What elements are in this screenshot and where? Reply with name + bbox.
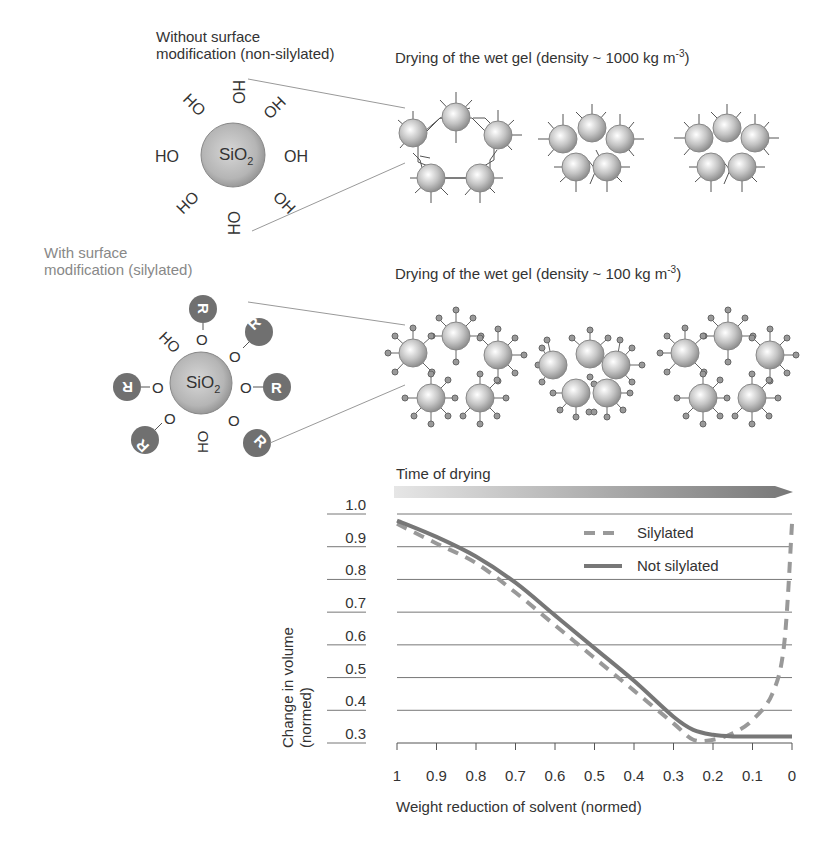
r-group-lower-left: R O <box>131 410 176 456</box>
gel-network-bottom-stage-2 <box>535 327 645 420</box>
y-tick-label: 0.6 <box>345 627 366 644</box>
x-tick-label: 0.3 <box>663 767 684 784</box>
oh-group: HO <box>230 80 247 104</box>
series-silylated-line <box>397 524 792 741</box>
r-group-right: R O <box>240 373 291 401</box>
time-of-drying-label: Time of drying <box>396 465 490 482</box>
gel-network-top-stage-3 <box>674 104 779 192</box>
oh-group: HO <box>194 431 211 454</box>
oh-group: HO <box>155 148 179 165</box>
x-tick-label: 0.1 <box>742 767 763 784</box>
svg-text:R: R <box>195 303 212 314</box>
x-tick-label: 0.8 <box>466 767 487 784</box>
sio2-particle-non-silylated: SiO2 HO OH HO HO HO OH HO OH <box>155 80 308 235</box>
oh-group: OH <box>260 93 289 122</box>
y-tick-label: 1.0 <box>345 496 366 513</box>
sio2-particle-silylated: SiO2 R O R O R O R O R O <box>113 295 291 457</box>
oh-group: HO <box>173 188 202 217</box>
x-tick-label: 0.7 <box>505 767 526 784</box>
oh-group: OH <box>284 148 308 165</box>
r-group-upper-right: R O <box>229 313 273 365</box>
x-tick-label: 0.2 <box>703 767 724 784</box>
x-tick-label: 0.9 <box>426 767 447 784</box>
r-group-lower-right: R O <box>228 412 271 457</box>
svg-text:O: O <box>164 410 176 427</box>
r-group-top: R O <box>189 295 217 348</box>
x-axis-tick-labels: 10.90.80.70.60.50.40.30.20.10 <box>393 767 796 784</box>
y-tick-label: 0.7 <box>345 594 366 611</box>
diagram-canvas: SiO2 HO OH HO HO HO OH HO OH <box>0 0 836 849</box>
svg-text:O: O <box>196 331 208 348</box>
x-tick-label: 1 <box>393 767 401 784</box>
svg-text:O: O <box>152 379 164 396</box>
legend-label-silylated: Silylated <box>637 524 694 541</box>
volume-chart: 1.00.90.80.70.60.50.40.3 10.90.80.70.60.… <box>279 496 796 815</box>
svg-text:R: R <box>271 379 282 396</box>
y-axis-title: Change in volume <box>279 627 296 748</box>
gel-network-bottom-stage-1 <box>385 307 527 427</box>
y-tick-label: 0.3 <box>345 725 366 742</box>
oh-group: HO <box>156 328 184 356</box>
legend-label-not-silylated: Not silylated <box>637 557 719 574</box>
oh-group: HO <box>180 90 209 119</box>
gel-network-top-stage-2 <box>538 104 644 192</box>
legend: Silylated Not silylated <box>584 524 719 574</box>
y-axis-ticks: 1.00.90.80.70.60.50.40.3 <box>327 496 366 743</box>
y-axis-title-unit: (normed) <box>297 687 314 748</box>
svg-text:O: O <box>240 379 252 396</box>
x-tick-label: 0 <box>788 767 796 784</box>
gel-network-bottom-stage-3 <box>657 307 799 427</box>
svg-text:O: O <box>229 348 241 365</box>
x-axis-title: Weight reduction of solvent (normed) <box>396 798 642 815</box>
zoom-connector-line <box>248 302 405 325</box>
y-tick-label: 0.8 <box>345 561 366 578</box>
y-tick-label: 0.4 <box>345 692 366 709</box>
x-tick-label: 0.4 <box>624 767 645 784</box>
oh-group: HO <box>226 211 243 235</box>
oh-group: OH <box>270 188 299 217</box>
time-arrow-icon <box>394 486 793 498</box>
svg-text:R: R <box>122 379 133 396</box>
zoom-connector-line <box>270 385 405 443</box>
svg-text:O: O <box>228 412 240 429</box>
y-tick-label: 0.9 <box>345 529 366 546</box>
x-axis <box>397 743 792 750</box>
r-group-left: R O <box>113 373 164 401</box>
gridlines <box>397 514 792 710</box>
x-tick-label: 0.6 <box>545 767 566 784</box>
x-tick-label: 0.5 <box>584 767 605 784</box>
gel-network-top-stage-1 <box>398 92 522 203</box>
y-tick-label: 0.5 <box>345 660 366 677</box>
